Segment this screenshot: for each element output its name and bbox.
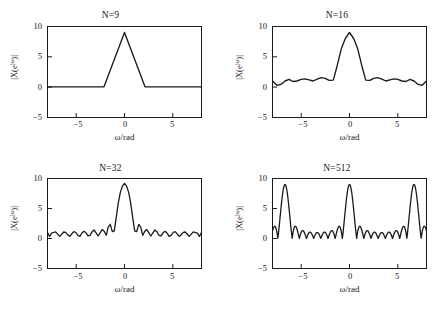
data-curve-n32 xyxy=(48,183,202,236)
panel-n9: N=9 |X(ejω)| 10 5 0 −5 −5 0 5 ω/rad xyxy=(0,0,221,155)
figure-grid: N=9 |X(ejω)| 10 5 0 −5 −5 0 5 ω/rad N=1 xyxy=(0,0,443,309)
panel-n16: N=16 |X(ejω)| 10 5 0 −5 −5 0 5 ω/rad xyxy=(221,0,443,155)
data-curve-n16 xyxy=(273,33,427,86)
panel-n32: N=32 |X(ejω)| 10 5 0 −5 −5 0 5 ω/rad xyxy=(0,155,221,309)
plot-area-n32 xyxy=(0,155,221,309)
data-curve-n512 xyxy=(273,185,427,239)
plot-area-n9 xyxy=(0,0,221,155)
plot-area-n512 xyxy=(221,155,443,309)
data-curve-n9 xyxy=(48,33,202,87)
panel-n512: N=512 |X(ejω)| 10 5 0 −5 −5 0 5 ω/rad xyxy=(221,155,443,309)
plot-area-n16 xyxy=(221,0,443,155)
